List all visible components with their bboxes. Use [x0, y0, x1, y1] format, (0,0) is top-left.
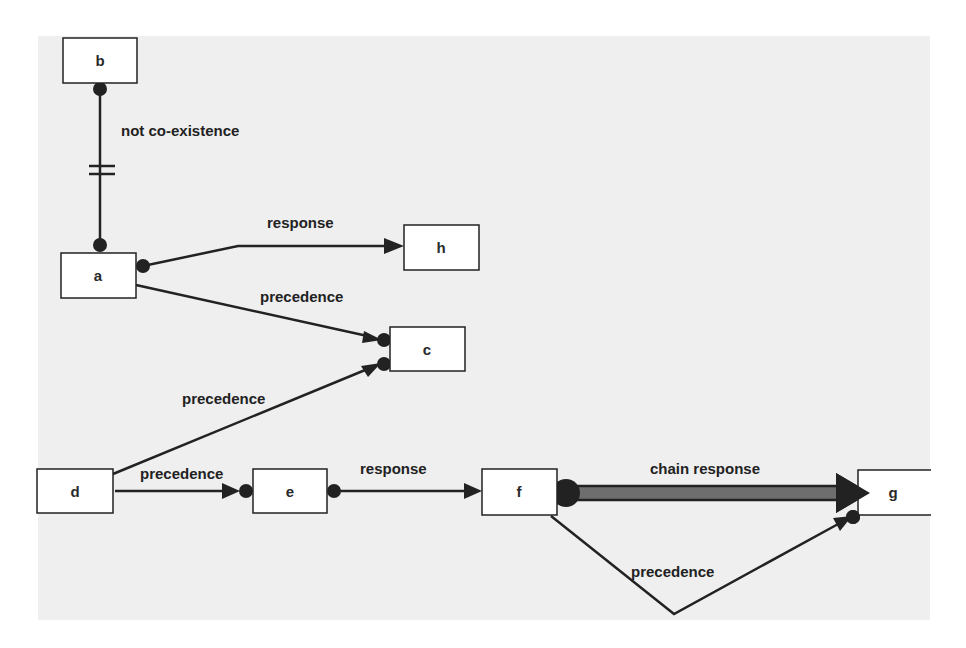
node-label: g [888, 484, 897, 501]
constraint-diagram: not co-existence response precedence pre… [0, 0, 966, 648]
node-label: a [94, 267, 103, 284]
edge-label: response [360, 460, 427, 477]
right-crop-mask [931, 0, 966, 648]
node-b[interactable]: b [63, 38, 137, 83]
edge-label: precedence [182, 390, 265, 407]
edge-label: precedence [140, 465, 223, 482]
edge-label: response [267, 214, 334, 231]
node-a[interactable]: a [61, 253, 136, 298]
arrowhead [464, 483, 482, 499]
node-e[interactable]: e [253, 469, 327, 513]
edge-d-c-precedence[interactable]: precedence [113, 357, 391, 474]
node-label: e [286, 483, 294, 500]
edge-end-dot [93, 238, 107, 252]
edge-start-dot [136, 259, 150, 273]
node-label: b [95, 52, 104, 69]
arrowhead [384, 238, 404, 254]
edge-end-dot [239, 484, 253, 498]
node-label: h [436, 239, 445, 256]
edge-d-e-precedence[interactable]: precedence [115, 465, 253, 499]
node-f[interactable]: f [482, 469, 557, 515]
edge-b-a-not-coexistence[interactable]: not co-existence [89, 82, 239, 252]
edge-e-f-response[interactable]: response [327, 460, 482, 499]
node-d[interactable]: d [37, 469, 113, 513]
edge-label: not co-existence [121, 122, 239, 139]
edge-end-dot-overlay [846, 510, 860, 524]
node-g[interactable]: g [858, 470, 938, 515]
edge-f-g-chain-response[interactable]: chain response [552, 460, 870, 513]
edge-start-dot [327, 484, 341, 498]
edge-start-dot [93, 82, 107, 96]
node-label: d [70, 483, 79, 500]
node-h[interactable]: h [404, 225, 479, 270]
edge-f-g-precedence[interactable]: precedence [551, 510, 860, 614]
edge-label: chain response [650, 460, 760, 477]
edge-a-h-response[interactable]: response [136, 214, 404, 273]
edge-end-dot [377, 357, 391, 371]
edge-a-c-precedence[interactable]: precedence [136, 285, 391, 347]
edge-label: precedence [631, 563, 714, 580]
arrowhead [222, 483, 240, 499]
edge-label: precedence [260, 288, 343, 305]
edge-end-dot [377, 333, 391, 347]
node-label: c [423, 341, 431, 358]
node-c[interactable]: c [390, 327, 465, 371]
